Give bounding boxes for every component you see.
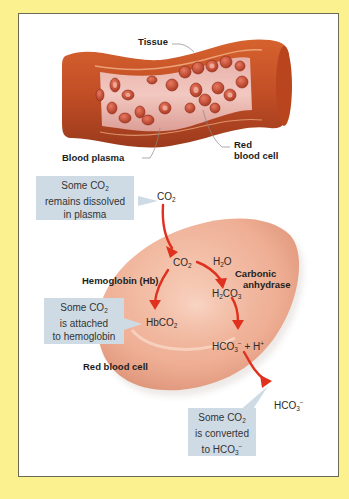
chem-co2-cell: CO2 — [173, 257, 192, 269]
label-line: anhydrase — [235, 280, 291, 291]
subscript: 2 — [104, 307, 108, 314]
label-tissue: Tissue — [138, 37, 168, 48]
chem-text: HCO — [274, 400, 296, 411]
callout-pointer-dissolved — [138, 196, 158, 206]
subscript: 3 — [238, 293, 242, 300]
label-red-line2: blood cell — [234, 151, 278, 162]
callout-text: to hemoglobin — [48, 330, 120, 343]
chem-text: HCO — [212, 341, 234, 352]
subscript: 3 — [296, 405, 300, 412]
chem-co2-plasma: CO2 — [157, 191, 176, 203]
callout-text: Some CO — [198, 412, 242, 423]
subscript: 3 — [235, 449, 239, 456]
callout-text: in plasma — [40, 208, 130, 221]
diagram-stage: Tissue Blood plasma Red blood cell Some … — [0, 0, 349, 499]
chem-hbco2: HbCO2 — [146, 317, 177, 329]
subscript: 2 — [242, 417, 246, 424]
callout-text: remains dissolved — [40, 195, 130, 208]
subscript: 2 — [174, 322, 178, 329]
chem-hco3-plus-h: HCO3− + H+ — [212, 340, 264, 353]
subscript: 2 — [105, 185, 109, 192]
label-blood-plasma: Blood plasma — [62, 153, 124, 164]
callout-text: Some CO — [60, 302, 104, 313]
callout-text: to HCO — [202, 444, 235, 455]
subscript: 2 — [188, 262, 192, 269]
callout-attached-to-hemoglobin: Some CO2 is attached to hemoglobin — [44, 298, 124, 344]
callout-converted-to-bicarbonate: Some CO2 is converted to HCO3− — [188, 408, 256, 456]
chem-text: CO — [173, 257, 188, 268]
chem-text: + H — [242, 341, 261, 352]
callout-dissolved-in-plasma: Some CO2 remains dissolved in plasma — [36, 176, 134, 220]
label-red-blood-cell-vessel: Red blood cell — [234, 140, 278, 162]
chem-text: CO — [157, 191, 172, 202]
chem-h2o: H2O — [213, 256, 232, 268]
chem-hco3-out: HCO3− — [274, 399, 304, 412]
diagram-artwork — [0, 0, 349, 499]
superscript: − — [300, 399, 304, 406]
label-red-blood-cell: Red blood cell — [83, 362, 148, 373]
label-hemoglobin: Hemoglobin (Hb) — [82, 276, 159, 287]
superscript: − — [239, 443, 243, 450]
superscript: + — [260, 340, 264, 347]
chem-text: O — [224, 256, 232, 267]
callout-text: is converted — [192, 427, 252, 440]
subscript: 2 — [172, 196, 176, 203]
callout-text: Some CO — [61, 180, 105, 191]
callout-text: is attached — [48, 317, 120, 330]
subscript: 3 — [234, 346, 238, 353]
label-carbonic-anhydrase: Carbonic anhydrase — [235, 269, 291, 291]
chem-text: HbCO — [146, 317, 174, 328]
